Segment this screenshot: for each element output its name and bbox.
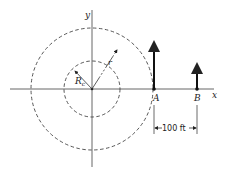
y-axis-label: y	[84, 10, 91, 20]
x-axis-label: x	[212, 90, 217, 100]
point-b-label: B	[193, 93, 201, 103]
point-a-label: A	[152, 93, 160, 103]
outer-radius-label: r	[108, 58, 113, 67]
point-a-dot	[152, 87, 156, 91]
outer-radius-arrow	[92, 50, 117, 89]
point-b-dot	[195, 87, 199, 91]
inner-radius-label: Rc	[74, 76, 86, 87]
diagram: x y Rc r A B 100 ft	[0, 0, 226, 170]
dimension-label: 100 ft	[162, 124, 186, 133]
